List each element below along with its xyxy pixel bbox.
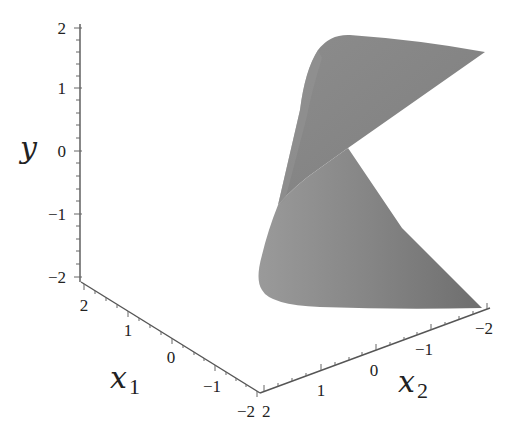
x2-tick-label: 0 xyxy=(370,361,379,380)
x1-axis-title: x1 xyxy=(110,360,140,399)
y-axis-title: y xyxy=(18,130,38,165)
x2-tick-label: 1 xyxy=(317,381,326,400)
y-tick-label: 1 xyxy=(58,79,67,98)
x1-tick-label: 2 xyxy=(80,296,89,315)
x2-axis-title: x2 xyxy=(398,364,428,403)
y-tick-label: −1 xyxy=(48,205,66,224)
x1-tick-label: 1 xyxy=(124,321,133,340)
y-tick-label: 2 xyxy=(58,19,67,38)
x2-tick-label: −2 xyxy=(475,319,493,338)
x2-tick-label: 2 xyxy=(262,402,271,421)
x1-axis: 2 1 0 −1 −2 x1 xyxy=(80,282,260,421)
x1-tick-label: −1 xyxy=(203,377,221,396)
x1-tick-label: −2 xyxy=(237,402,255,421)
y-tick-label: 0 xyxy=(58,142,67,161)
x2-tick-label: −1 xyxy=(415,340,433,359)
y-axis: 2 1 0 −1 −2 y xyxy=(18,19,82,287)
y-axis-ticks xyxy=(74,28,82,277)
surface-plot: 2 1 0 −1 −2 y 2 1 0 xyxy=(0,0,514,433)
x2-axis: 2 1 0 −1 −2 x2 xyxy=(260,303,493,421)
x1-tick-label: 0 xyxy=(167,348,176,367)
y-tick-label: −2 xyxy=(48,268,66,287)
